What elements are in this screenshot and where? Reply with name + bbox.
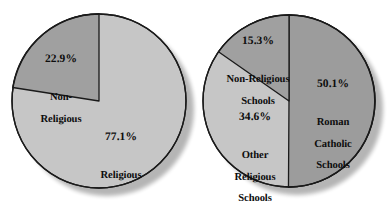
left-pie-chart[interactable] <box>12 14 186 188</box>
left-pie-slice-non-religious[interactable] <box>13 14 99 101</box>
right-pie-slice-roman-catholic[interactable] <box>288 15 374 187</box>
right-pie-chart[interactable] <box>203 15 375 187</box>
pie-charts-figure: 22.9% Non- Religious 77.1% Religious 50.… <box>0 0 389 204</box>
pie-charts-canvas <box>0 0 389 204</box>
